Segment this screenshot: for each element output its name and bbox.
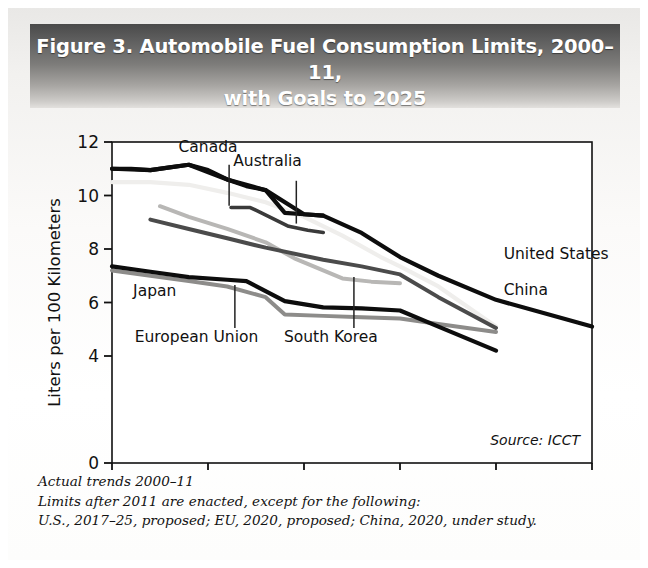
note-line-3: U.S., 2017–25, proposed; EU, 2020, propo… — [38, 511, 620, 531]
y-axis-tick-label: 12 — [77, 132, 99, 152]
y-axis-tick-label: 4 — [88, 346, 99, 366]
series-label-european-union: European Union — [135, 328, 259, 346]
series-label-canada: Canada — [179, 138, 238, 156]
y-axis-tick-label: 0 — [88, 453, 99, 470]
plot-frame — [112, 142, 592, 463]
series-label-china: China — [504, 281, 548, 299]
series-label-south-korea: South Korea — [284, 328, 378, 346]
y-axis-tick-label: 8 — [88, 239, 99, 259]
figure-title-line-1: Figure 3. Automobile Fuel Consumption Li… — [30, 34, 620, 86]
note-line-1: Actual trends 2000–11 — [38, 472, 620, 492]
source-label: Source: ICCT — [490, 432, 581, 448]
figure-card: Figure 3. Automobile Fuel Consumption Li… — [0, 0, 648, 568]
y-axis-tick-label: 10 — [77, 186, 99, 206]
y-axis-title: Liters per 100 Kilometers — [45, 198, 64, 407]
line-chart: 04681012200020052010201520202025Liters p… — [30, 112, 620, 470]
title-banner: Figure 3. Automobile Fuel Consumption Li… — [30, 24, 620, 108]
chart-area: 04681012200020052010201520202025Liters p… — [30, 112, 620, 470]
figure-title-line-2: with Goals to 2025 — [30, 86, 620, 112]
y-axis-tick-label: 6 — [88, 293, 99, 313]
series-label-australia: Australia — [233, 152, 302, 170]
note-line-2: Limits after 2011 are enacted, except fo… — [38, 492, 620, 512]
series-label-united-states: United States — [504, 245, 609, 263]
figure-title: Figure 3. Automobile Fuel Consumption Li… — [30, 34, 620, 112]
figure-panel: Figure 3. Automobile Fuel Consumption Li… — [30, 20, 620, 548]
series-label-japan: Japan — [132, 282, 176, 300]
figure-notes: Actual trends 2000–11 Limits after 2011 … — [38, 472, 620, 531]
